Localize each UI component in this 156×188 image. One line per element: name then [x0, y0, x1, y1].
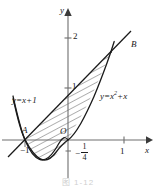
parabola-equation-label: y=x2+x [100, 90, 127, 101]
fraction-numerator: 1 [83, 143, 87, 151]
x-axis-label: x [145, 146, 149, 155]
x-tick-label-neg1: −1 [20, 146, 30, 155]
x-tick-label-1: 1 [120, 147, 125, 156]
minimum-value-fraction-label: − 1 4 [75, 143, 88, 162]
figure-caption: 图 1-12 [0, 176, 156, 187]
fraction-minus-sign: − [75, 148, 80, 158]
parabola-eq-suffix: +x [117, 91, 127, 101]
y-axis-label: y [60, 6, 64, 15]
y-tick-label-2: 2 [73, 32, 78, 41]
parabola-eq-prefix: y=x [100, 91, 114, 101]
fraction-stack: 1 4 [81, 143, 88, 162]
line-equation-label: y=x+1 [12, 96, 37, 105]
figure-container: y x A B O 2 1 1 −1 y=x+1 y=x2+x − 1 4 图 … [0, 0, 156, 188]
point-B-marker [110, 51, 112, 53]
y-tick-label-1: 1 [72, 82, 77, 91]
point-label-a: A [22, 126, 28, 135]
point-label-b: B [131, 40, 137, 49]
origin-label: O [60, 127, 67, 136]
fraction-denominator: 4 [83, 154, 87, 162]
point-A-marker [24, 139, 26, 141]
